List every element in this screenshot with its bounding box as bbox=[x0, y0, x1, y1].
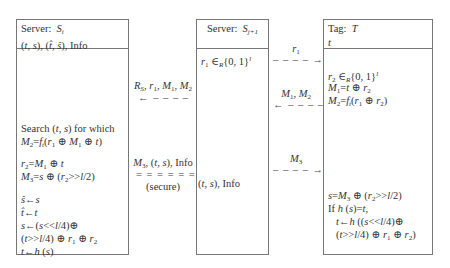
arrow-left-dashed-icon: ← – – – – bbox=[138, 93, 189, 103]
tag-state: t bbox=[328, 36, 428, 50]
tag-box: Tag: T t r2 ∈R{0, 1}l M1=t ⊕ r2 M2=ft(r1… bbox=[323, 19, 433, 255]
server-i-title: Server: Si bbox=[21, 22, 124, 39]
t-update-line: t←h (s) bbox=[21, 245, 53, 258]
r1-gen-line: r1 ∈R{0, 1}l bbox=[201, 53, 251, 72]
server-j1-title: Server: Sj+1 bbox=[201, 22, 264, 39]
tag-header: Tag: T t bbox=[324, 20, 432, 49]
secure-note: (secure) bbox=[130, 181, 196, 193]
search-line: Search (t, s) for which bbox=[21, 122, 115, 135]
server-j1-body: r1 ∈R{0, 1}l (t, s), Info bbox=[197, 49, 268, 254]
m2-line: M2=ft(r1 ⊕ r2) bbox=[328, 94, 387, 111]
server-j1-box: Server: Sj+1 r1 ∈R{0, 1}l (t, s), Info bbox=[196, 19, 269, 255]
arrow-right-dashed-icon: – – – – → bbox=[273, 165, 324, 175]
server-i-header: Server: Si (t, s), (t̂, ŝ), Info bbox=[17, 20, 128, 49]
if-check-line: If h (s)=t, bbox=[328, 202, 368, 215]
tag-body: r2 ∈R{0, 1}l M1=t ⊕ r2 M2=ft(r1 ⊕ r2) s=… bbox=[324, 49, 432, 254]
m2-check-line: M2=ft(r1 ⊕ M1 ⊕ t) bbox=[21, 135, 102, 152]
arrow-right-dashed-icon: – – – – → bbox=[273, 55, 324, 65]
server-j1-header: Server: Sj+1 bbox=[197, 20, 268, 49]
t-update-line2: (t>>l/4) ⊕ r1 ⊕ r2) bbox=[336, 228, 416, 245]
s-update-line1: s←(s<<l/4)⊕ bbox=[21, 219, 78, 232]
ts-info-line: (t, s), Info bbox=[198, 177, 240, 190]
s-hat-line: ŝ←s bbox=[21, 193, 40, 206]
arrow-left-dashed-icon: ← – – – – bbox=[273, 100, 324, 110]
t-hat-line: t̂←t bbox=[21, 206, 37, 219]
t-update-line1: t←h ((s<<l/4)⊕ bbox=[336, 215, 404, 228]
server-i-body: Search (t, s) for which M2=ft(r1 ⊕ M1 ⊕ … bbox=[17, 49, 128, 254]
server-i-box: Server: Si (t, s), (t̂, ŝ), Info Search … bbox=[16, 19, 129, 255]
tag-title: Tag: T bbox=[328, 22, 428, 36]
m3-line: M3=s ⊕ (r2>>l/2) bbox=[21, 170, 95, 187]
